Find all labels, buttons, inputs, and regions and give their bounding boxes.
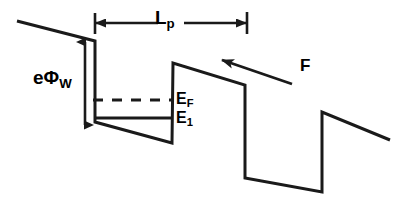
fermi-level-base: E [176, 90, 187, 107]
fermi-level-label: EF [176, 91, 194, 107]
work-function-subscript: W [59, 76, 72, 91]
ground-state-subscript: 1 [187, 116, 193, 128]
energy-band-diagram: eΦW Lp EF E1 F [0, 0, 404, 205]
fermi-level-subscript: F [187, 97, 194, 109]
period-subscript: p [167, 16, 175, 31]
ground-state-base: E [176, 109, 187, 126]
field-label: F [300, 57, 310, 74]
work-function-label: eΦW [33, 68, 72, 87]
band-edge-profile [17, 21, 390, 192]
period-label: Lp [155, 8, 175, 27]
period-base: L [155, 7, 167, 28]
work-function-base: e [33, 67, 44, 88]
work-function-symbol: Φ [44, 67, 60, 88]
ground-state-label: E1 [176, 110, 193, 126]
band-diagram-canvas [0, 0, 404, 205]
